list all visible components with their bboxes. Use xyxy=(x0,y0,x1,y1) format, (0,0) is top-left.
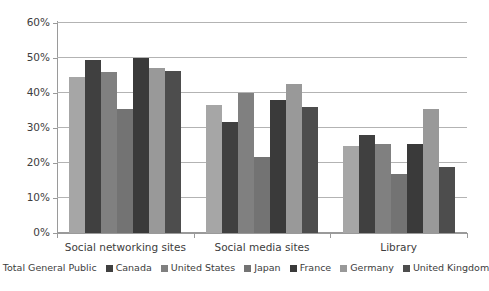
y-tick-mark xyxy=(53,93,57,94)
legend-swatch-icon xyxy=(340,265,347,272)
legend-label: United Kingdom xyxy=(413,263,489,273)
legend-item[interactable]: Canada xyxy=(106,263,152,273)
y-tick-label: 40% xyxy=(6,87,50,97)
y-tick-mark xyxy=(53,198,57,199)
legend-item[interactable]: United Kingdom xyxy=(403,263,489,273)
bar xyxy=(407,144,423,233)
x-tick-mark xyxy=(194,234,195,238)
bar xyxy=(439,167,455,234)
bar xyxy=(423,109,439,233)
legend-item[interactable]: United States xyxy=(161,263,235,273)
bar xyxy=(270,100,286,233)
legend-swatch-icon xyxy=(403,265,410,272)
y-tick-mark xyxy=(53,23,57,24)
bar xyxy=(286,84,302,233)
bar xyxy=(69,77,85,233)
bar xyxy=(206,105,222,233)
bar-group xyxy=(57,23,194,233)
y-tick-label: 50% xyxy=(6,52,50,62)
chart-legend: Total General PublicCanadaUnited StatesJ… xyxy=(0,263,482,273)
y-axis-labels: 0%10%20%30%40%50%60% xyxy=(0,0,50,291)
x-category-label: Library xyxy=(330,241,467,253)
y-tick-mark xyxy=(53,163,57,164)
x-category-label: Social networking sites xyxy=(57,241,194,253)
bar xyxy=(375,144,391,233)
legend-label: Germany xyxy=(350,263,394,273)
bar-group xyxy=(330,23,467,233)
x-axis-line xyxy=(57,233,468,234)
bar xyxy=(133,58,149,233)
y-tick-label: 0% xyxy=(6,227,50,237)
legend-swatch-icon xyxy=(244,265,251,272)
bar xyxy=(302,107,318,233)
legend-label: Total General Public xyxy=(3,263,97,273)
y-tick-mark xyxy=(53,58,57,59)
legend-label: Canada xyxy=(116,263,152,273)
legend-item[interactable]: Japan xyxy=(244,263,281,273)
bar xyxy=(254,157,270,233)
bar xyxy=(391,174,407,234)
legend-swatch-icon xyxy=(161,265,168,272)
bar xyxy=(238,93,254,233)
legend-swatch-icon xyxy=(290,265,297,272)
bar xyxy=(149,68,165,233)
legend-label: Japan xyxy=(254,263,281,273)
x-tick-mark xyxy=(330,234,331,238)
bar xyxy=(117,109,133,233)
y-tick-label: 30% xyxy=(6,122,50,132)
y-tick-mark xyxy=(53,128,57,129)
bar xyxy=(222,122,238,233)
bar xyxy=(165,71,181,233)
bar xyxy=(101,72,117,233)
y-tick-label: 10% xyxy=(6,192,50,202)
y-tick-label: 20% xyxy=(6,157,50,167)
bar xyxy=(85,60,101,233)
plot-area xyxy=(57,23,467,233)
x-tick-mark xyxy=(467,234,468,238)
x-category-label: Social media sites xyxy=(194,241,331,253)
x-tick-mark xyxy=(57,234,58,238)
y-tick-label: 60% xyxy=(6,17,50,27)
legend-label: France xyxy=(300,263,332,273)
bar-group xyxy=(194,23,331,233)
legend-swatch-icon xyxy=(106,265,113,272)
legend-item[interactable]: Germany xyxy=(340,263,394,273)
bar xyxy=(343,146,359,234)
legend-item[interactable]: France xyxy=(290,263,332,273)
legend-item[interactable]: Total General Public xyxy=(0,263,97,273)
bar xyxy=(359,135,375,233)
legend-label: United States xyxy=(171,263,235,273)
